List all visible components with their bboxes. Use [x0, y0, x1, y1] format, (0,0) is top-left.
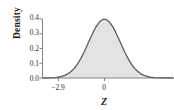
y-tick-label-0: 0.4 — [17, 13, 39, 22]
y-tick-label-3: 0.1 — [17, 59, 39, 68]
y-tick-label-1: 0.3 — [17, 28, 39, 37]
shaded-area-group — [58, 19, 173, 78]
y-axis-spine — [40, 19, 43, 78]
shaded-area-right-of-neg29 — [58, 19, 173, 78]
normal-distribution-chart: Density 0.4 0.3 0.2 0.1 0.0 −2.9 0 Z — [0, 0, 174, 110]
x-tick-label-neg29: −2.9 — [43, 83, 73, 92]
x-axis-spine — [43, 78, 174, 81]
y-tick-label-4: 0.0 — [17, 74, 39, 83]
x-tick-label-zero: 0 — [89, 83, 119, 92]
x-axis-label: Z — [88, 96, 120, 107]
y-tick-label-2: 0.2 — [17, 44, 39, 53]
